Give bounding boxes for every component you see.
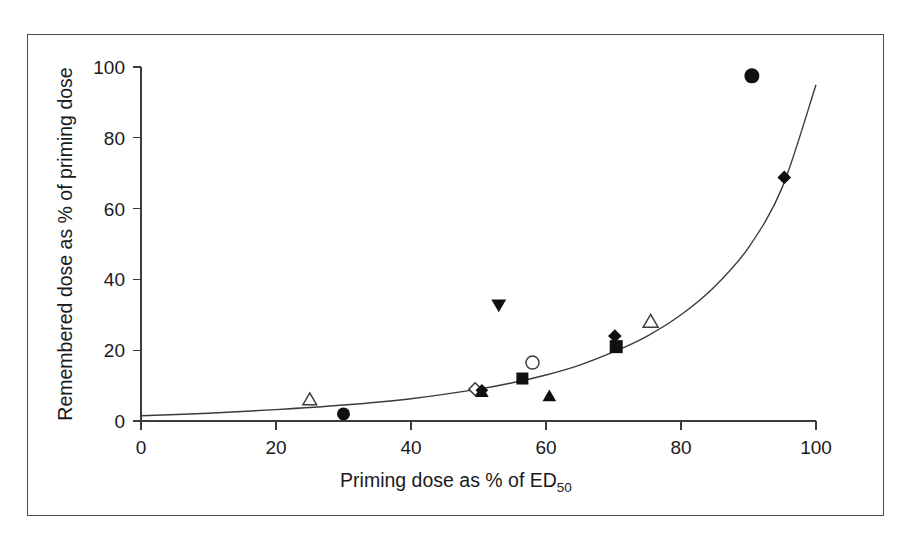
x-tick-label-80: 80 bbox=[670, 437, 691, 458]
fit-curve-line bbox=[141, 85, 816, 416]
scatter-plot: 020406080100 020406080100 Remembered dos… bbox=[0, 0, 912, 545]
data-point-diamond-filled-13 bbox=[777, 171, 791, 185]
axes-group bbox=[141, 67, 816, 421]
x-axis-title-group: Priming dose as % of ED50 bbox=[340, 469, 572, 495]
x-axis-title-subscript: 50 bbox=[557, 480, 572, 495]
x-axis-ticks bbox=[141, 421, 816, 430]
data-point-triangle-down-filled-5 bbox=[491, 300, 506, 313]
data-point-square-filled-6 bbox=[516, 373, 528, 385]
y-axis-title: Remembered dose as % of priming dose bbox=[54, 67, 76, 420]
y-axis-ticks bbox=[133, 67, 141, 421]
data-point-circle-filled-12 bbox=[744, 68, 759, 83]
x-axis-tick-labels: 020406080100 bbox=[136, 437, 832, 458]
x-tick-label-40: 40 bbox=[400, 437, 421, 458]
data-point-circle-open-7 bbox=[526, 356, 539, 369]
y-tick-label-60: 60 bbox=[104, 199, 125, 220]
y-tick-label-20: 20 bbox=[104, 340, 125, 361]
figure-root: 020406080100 020406080100 Remembered dos… bbox=[0, 0, 912, 545]
x-tick-label-100: 100 bbox=[800, 437, 832, 458]
x-tick-label-0: 0 bbox=[136, 437, 147, 458]
y-tick-label-0: 0 bbox=[114, 411, 125, 432]
data-point-circle-filled-1 bbox=[337, 407, 350, 420]
y-tick-label-40: 40 bbox=[104, 269, 125, 290]
x-tick-label-60: 60 bbox=[535, 437, 556, 458]
y-tick-label-80: 80 bbox=[104, 128, 125, 149]
data-point-triangle-up-open-11 bbox=[643, 314, 658, 327]
x-tick-label-20: 20 bbox=[265, 437, 286, 458]
y-axis-tick-labels: 020406080100 bbox=[93, 57, 125, 432]
data-point-markers bbox=[303, 68, 791, 420]
x-axis-title-text: Priming dose as % of ED bbox=[340, 469, 557, 491]
data-point-square-filled-10 bbox=[610, 340, 623, 353]
y-tick-label-100: 100 bbox=[93, 57, 125, 78]
data-point-triangle-up-open-0 bbox=[303, 393, 317, 405]
x-axis-title: Priming dose as % of ED50 bbox=[340, 469, 572, 495]
data-point-triangle-up-filled-8 bbox=[543, 389, 557, 401]
